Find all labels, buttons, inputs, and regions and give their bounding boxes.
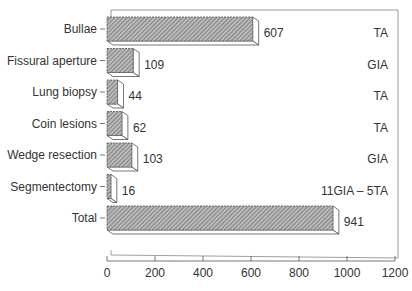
bars-group: Bullae607TAFissural aperture109GIALung b… — [7, 17, 388, 234]
value-label: 103 — [143, 152, 163, 166]
bar-side — [253, 17, 259, 45]
bar-bottom — [107, 73, 139, 77]
bar-side — [122, 112, 128, 140]
value-label: 16 — [122, 184, 136, 198]
category-label: Segmentectomy — [10, 180, 97, 194]
bar — [107, 206, 333, 230]
category-label: Fissural aperture — [7, 54, 97, 68]
category-label: Coin lesions — [32, 117, 97, 131]
x-tick-label: 600 — [241, 266, 261, 280]
bar — [107, 175, 111, 199]
method-annotation: 11GIA – 5TA — [321, 184, 388, 198]
x-tick-label: 800 — [289, 266, 309, 280]
method-annotation: TA — [374, 89, 388, 103]
bar — [107, 143, 132, 167]
method-annotation: GIA — [367, 58, 388, 72]
category-label: Bullae — [64, 22, 98, 36]
bar-row: Wedge resection103GIA — [7, 143, 388, 171]
x-tick-label: 0 — [104, 266, 111, 280]
bar-side — [133, 49, 139, 77]
value-label: 62 — [133, 121, 147, 135]
bar-side — [111, 175, 117, 203]
bar-row: Lung biopsy44TA — [32, 80, 388, 108]
bar-row: Bullae607TA — [64, 17, 388, 45]
category-label: Total — [72, 211, 97, 225]
x-tick-label: 1200 — [382, 266, 409, 280]
value-label: 607 — [264, 26, 284, 40]
chart-canvas: Bullae607TAFissural aperture109GIALung b… — [0, 0, 412, 291]
bar-bottom — [107, 41, 259, 45]
floor-line — [111, 255, 398, 258]
value-label: 44 — [129, 89, 143, 103]
method-annotation: TA — [374, 26, 388, 40]
bar-row: Coin lesions62TA — [32, 112, 388, 140]
x-axis: 020040060080010001200 — [104, 250, 409, 280]
bar-row: Total941 — [72, 206, 365, 234]
category-label: Lung biopsy — [32, 85, 97, 99]
bar — [107, 80, 118, 104]
bar — [107, 17, 253, 41]
bar-row: Segmentectomy1611GIA – 5TA — [10, 175, 388, 203]
x-tick-label: 400 — [193, 266, 213, 280]
bar-side — [333, 206, 339, 234]
x-tick-label: 200 — [145, 266, 165, 280]
x-tick-label: 1000 — [334, 266, 361, 280]
method-annotation: TA — [374, 121, 388, 135]
horizontal-3d-bar-chart: Bullae607TAFissural aperture109GIALung b… — [0, 0, 412, 291]
bar-bottom — [107, 230, 339, 234]
bar — [107, 49, 133, 73]
bar-row: Fissural aperture109GIA — [7, 49, 388, 77]
category-label: Wedge resection — [7, 148, 97, 162]
bar-bottom — [107, 167, 138, 171]
bar-side — [118, 80, 124, 108]
bar — [107, 112, 122, 136]
value-label: 941 — [344, 215, 364, 229]
value-label: 109 — [144, 58, 164, 72]
bar-side — [132, 143, 138, 171]
method-annotation: GIA — [367, 152, 388, 166]
